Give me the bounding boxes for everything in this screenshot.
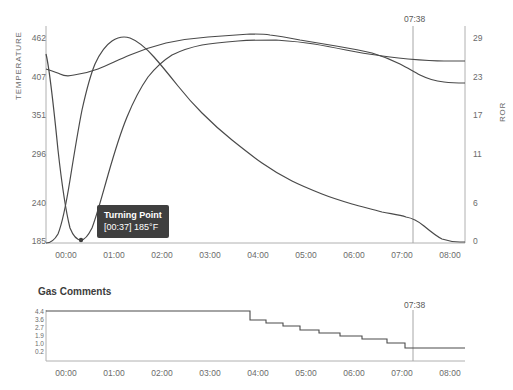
gas-x-tick-7: 07:00: [385, 368, 419, 378]
temperature-plot-svg: [0, 0, 513, 272]
turning-point-marker[interactable]: [79, 238, 83, 242]
x-tick-3: 03:00: [193, 250, 227, 260]
y-tick-left-5: 462: [18, 33, 46, 43]
x-tick-7: 07:00: [385, 250, 419, 260]
gas-x-tick-1: 01:00: [97, 368, 131, 378]
gas-x-tick-6: 06:00: [337, 368, 371, 378]
y-tick-left-2: 296: [18, 149, 46, 159]
roast-profile-screen: TEMPERATURE ROR 462 407 351 296 240 185 …: [0, 0, 513, 390]
x-tick-5: 05:00: [289, 250, 323, 260]
x-tick-2: 02:00: [145, 250, 179, 260]
gas-x-tick-8: 08:00: [433, 368, 467, 378]
gas-time-cursor-label: 07:38: [404, 300, 425, 310]
y-tick-left-1: 240: [18, 198, 46, 208]
y-tick-right-2: 11: [473, 149, 495, 159]
y-tick-right-5: 29: [473, 33, 495, 43]
y-tick-right-1: 6: [473, 198, 495, 208]
turning-point-tooltip: Turning Point [00:37] 185°F: [97, 205, 169, 238]
y-tick-right-0: 0: [473, 236, 495, 246]
x-tick-6: 06:00: [337, 250, 371, 260]
x-tick-4: 04:00: [241, 250, 275, 260]
gas-x-tick-2: 02:00: [145, 368, 179, 378]
x-tick-0: 00:00: [49, 250, 83, 260]
y-tick-left-3: 351: [18, 110, 46, 120]
gas-x-tick-5: 05:00: [289, 368, 323, 378]
gas-y-tick-5: 4.4: [24, 308, 44, 315]
gas-y-tick-4: 3.6: [24, 316, 44, 323]
gas-x-tick-0: 00:00: [49, 368, 83, 378]
tooltip-title: Turning Point: [104, 209, 162, 221]
tooltip-detail: [00:37] 185°F: [104, 221, 162, 233]
gas-comments-chart[interactable]: Gas Comments 4.4 3.6 2.7 1.9 1.0 0.2 00:…: [0, 276, 513, 390]
gas-comments-title: Gas Comments: [38, 286, 111, 297]
y-tick-left-4: 407: [18, 72, 46, 82]
x-tick-1: 01:00: [97, 250, 131, 260]
gas-y-tick-0: 0.2: [24, 348, 44, 355]
temperature-chart[interactable]: TEMPERATURE ROR 462 407 351 296 240 185 …: [0, 0, 513, 272]
y-tick-right-3: 17: [473, 110, 495, 120]
gas-x-tick-4: 04:00: [241, 368, 275, 378]
gas-x-tick-3: 03:00: [193, 368, 227, 378]
gas-y-tick-2: 1.9: [24, 332, 44, 339]
gas-setting-step-line: [46, 311, 465, 348]
time-cursor-label: 07:38: [404, 14, 425, 24]
x-tick-8: 08:00: [433, 250, 467, 260]
y-tick-left-0: 185: [18, 236, 46, 246]
gas-y-tick-3: 2.7: [24, 324, 44, 331]
y-axis-title-ror: ROR: [498, 102, 507, 122]
gas-y-tick-1: 1.0: [24, 340, 44, 347]
y-tick-right-4: 23: [473, 72, 495, 82]
